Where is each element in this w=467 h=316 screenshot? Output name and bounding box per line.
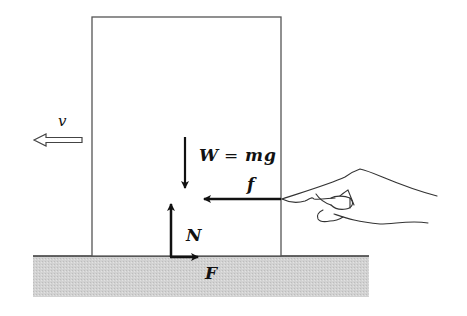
svg-text:g: g [264,145,276,165]
block [92,17,281,256]
svg-text:=: = [224,145,238,165]
velocity-arrow-icon [34,134,82,146]
svg-text:m: m [245,145,263,165]
velocity-label: v [58,112,67,130]
normal-force-label: N [185,225,203,245]
svg-text:W: W [199,145,220,165]
friction-force-label: F [204,263,219,283]
ground [33,256,369,297]
free-body-diagram: v W = m g f N F [0,0,467,316]
pointing-hand-icon [282,169,437,224]
weight-label: W = m g [199,145,276,165]
